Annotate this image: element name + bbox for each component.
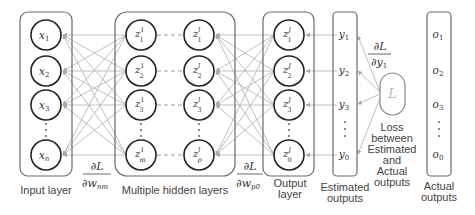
svg-text:∂L: ∂L xyxy=(91,160,104,173)
svg-text:y3: y3 xyxy=(338,98,349,112)
svg-text:1: 1 xyxy=(140,36,144,44)
hidden-dashed-links xyxy=(157,35,183,155)
input-layer-label: Input layer xyxy=(20,184,72,196)
svg-text:y2: y2 xyxy=(338,64,349,78)
svg-text:o0: o0 xyxy=(433,148,444,162)
gradient-hidden-output: ∂L ∂wp0 xyxy=(236,160,263,191)
svg-text:3: 3 xyxy=(288,106,292,114)
svg-text:o2: o2 xyxy=(433,64,444,78)
svg-text:∂L: ∂L xyxy=(374,40,387,53)
estimated-outputs-label-2: outputs xyxy=(327,192,364,204)
gradient-input-hidden: ∂L ∂wnm xyxy=(82,160,111,191)
svg-text:1: 1 xyxy=(288,36,292,44)
svg-text:2: 2 xyxy=(198,72,202,80)
svg-text:∂L: ∂L xyxy=(244,160,257,173)
svg-text:2: 2 xyxy=(288,72,292,80)
loss-caption: Loss between Estimated and Actual output… xyxy=(368,121,417,188)
svg-text:3: 3 xyxy=(140,106,144,114)
gradient-loss-estimate: ∂L ∂y1 xyxy=(368,40,391,70)
hidden-layers-label: Multiple hidden layers xyxy=(122,184,229,196)
actual-output-labels: o1 o2 o3 o0 xyxy=(433,28,444,162)
svg-text:y1: y1 xyxy=(338,28,349,42)
svg-text:outputs: outputs xyxy=(374,176,411,188)
svg-text:o3: o3 xyxy=(433,98,444,112)
edges-hidden-output xyxy=(216,35,274,155)
backprop-diagram: x1 x2 x3 xn z1 1 z1 2 z1 3 z1 m zl 1 zl … xyxy=(0,0,475,215)
edges-output-estimated xyxy=(306,35,337,155)
svg-text:0: 0 xyxy=(288,156,292,164)
svg-text:∂wnm: ∂wnm xyxy=(82,177,109,191)
actual-outputs-label-2: outputs xyxy=(421,191,458,203)
svg-text:m: m xyxy=(140,156,146,164)
svg-text:y0: y0 xyxy=(338,148,349,162)
svg-text:o1: o1 xyxy=(433,28,444,42)
svg-text:∂y1: ∂y1 xyxy=(371,56,387,70)
estimated-output-labels: y1 y2 y3 y0 xyxy=(338,28,349,162)
loss-symbol: L xyxy=(387,86,397,101)
output-layer-label-2: layer xyxy=(278,188,302,200)
svg-text:3: 3 xyxy=(198,106,202,114)
svg-text:1: 1 xyxy=(198,36,202,44)
svg-text:2: 2 xyxy=(140,72,144,80)
svg-text:∂wp0: ∂wp0 xyxy=(236,177,261,191)
